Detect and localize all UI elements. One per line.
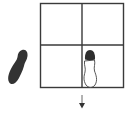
toe-cap	[85, 50, 95, 60]
grid	[41, 4, 124, 88]
filled-footprint-icon	[8, 50, 27, 84]
down-arrow-icon	[79, 95, 85, 109]
footprint-grid-diagram	[0, 0, 129, 119]
outlined-footprint-icon	[84, 50, 97, 87]
